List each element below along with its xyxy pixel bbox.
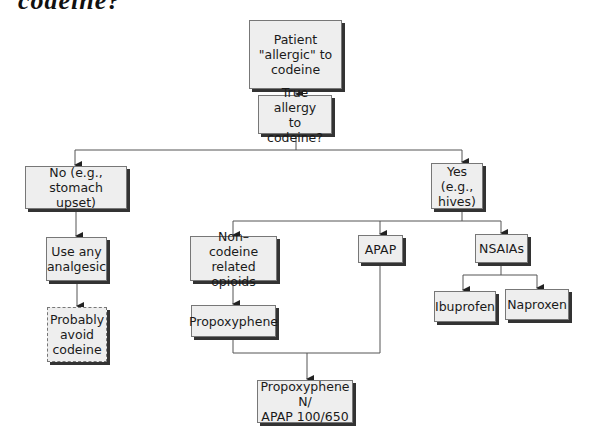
- node-probably-avoid-codeine: Probably avoid codeine: [47, 307, 107, 362]
- node-propoxyphene: Propoxyphene: [191, 305, 276, 337]
- node-nsaias: NSAIAs: [475, 234, 528, 263]
- node-yes-hives: Yes (e.g., hives): [431, 163, 483, 209]
- node-apap: APAP: [358, 235, 403, 263]
- node-naproxen: Naproxen: [505, 289, 569, 320]
- node-use-any-analgesic: Use any analgesic: [46, 237, 107, 281]
- node-propoxyphene-n-apap: Propoxyphene N/ APAP 100/650: [257, 380, 353, 423]
- node-non-codeine-opioids: Non–codeine related opioids: [190, 236, 277, 281]
- node-ibuprofen: Ibuprofen: [434, 291, 496, 322]
- node-true-allergy-question: True allergy to codeine?: [258, 95, 332, 134]
- node-patient-allergic: Patient "allergic" to codeine: [249, 20, 342, 89]
- node-no-stomach-upset: No (e.g., stomach upset): [25, 166, 127, 209]
